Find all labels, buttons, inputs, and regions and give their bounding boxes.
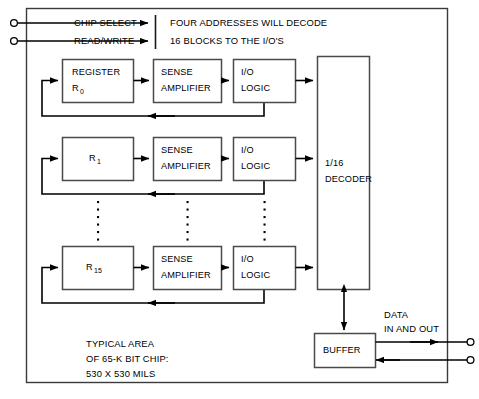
chip-note-line-1: TYPICAL AREA [86,338,155,349]
sense-amplifier-block-row-15[interactable] [154,247,222,290]
sense-amplifier-row-0-line-2: AMPLIFIER [161,83,211,93]
io-logic-block-row-1[interactable] [234,138,296,181]
buffer-label: BUFFER [323,345,361,355]
io-logic-row-0-line-2: LOGIC [241,83,271,93]
decoder-label-line-1: 1/16 [325,158,343,168]
annotation-line-2: 16 BLOCKS TO THE I/O'S [170,35,284,46]
block-diagram-canvas: CHIP SELECT READ/WRITE FOUR ADDRESSES WI… [0,0,479,399]
register-block-row-15-label: R [86,262,93,272]
register-block-row-0-subscript: 0 [80,88,84,95]
data-out-terminal-icon[interactable] [467,339,474,346]
sense-amplifier-row-1-line-1: SENSE [161,145,193,155]
data-port-label-line-2: IN AND OUT [384,323,439,334]
io-logic-block-row-15[interactable] [234,247,296,290]
chip-note-line-3: 530 X 530 MILS [86,368,155,379]
annotation-line-1: FOUR ADDRESSES WILL DECODE [170,17,327,28]
sense-amplifier-row-1-line-2: AMPLIFIER [161,161,211,171]
register-block-row-1-subscript: 1 [97,158,101,165]
sense-amplifier-row-15-line-1: SENSE [161,254,193,264]
sense-amplifier-block-row-0[interactable] [154,60,222,103]
read-write-label: READ/WRITE [74,35,134,46]
row-1-group: R 1 SENSE AMPLIFIER I/O LOGIC [42,138,313,195]
data-out-group [376,339,474,346]
sense-amplifier-row-15-line-2: AMPLIFIER [161,270,211,280]
decoder-label-line-2: DECODER [325,174,372,184]
register-block-row-0-line-1: REGISTER [72,67,120,77]
chip-select-terminal-icon[interactable] [11,20,18,27]
register-block-row-0[interactable] [63,60,134,103]
data-in-group [376,357,474,364]
decoder-block[interactable] [318,57,370,290]
data-in-terminal-icon[interactable] [467,357,474,364]
sense-amplifier-block-row-1[interactable] [154,138,222,181]
io-logic-row-15-line-1: I/O [241,254,254,264]
sense-amplifier-row-0-line-1: SENSE [161,67,193,77]
register-block-row-0-line-2: R [72,83,79,93]
row-0-group: REGISTER R 0 SENSE AMPLIFIER I/O LOGIC [42,60,313,117]
io-logic-block-row-0[interactable] [234,60,296,103]
io-logic-row-0-line-1: I/O [241,67,254,77]
row-15-group: R 15 SENSE AMPLIFIER I/O LOGIC [42,247,313,304]
io-logic-row-1-line-2: LOGIC [241,161,271,171]
chip-select-label: CHIP SELECT [74,17,137,28]
data-port-label-line-1: DATA [384,309,409,320]
register-block-row-15-subscript: 15 [94,267,102,274]
io-logic-row-15-line-2: LOGIC [241,270,271,280]
chip-note-line-2: OF 65-K BIT CHIP: [86,353,169,364]
register-block-row-1-label: R [89,153,96,163]
io-logic-row-1-line-1: I/O [241,145,254,155]
memory-chip-block-diagram: CHIP SELECT READ/WRITE FOUR ADDRESSES WI… [0,0,479,399]
read-write-terminal-icon[interactable] [11,38,18,45]
